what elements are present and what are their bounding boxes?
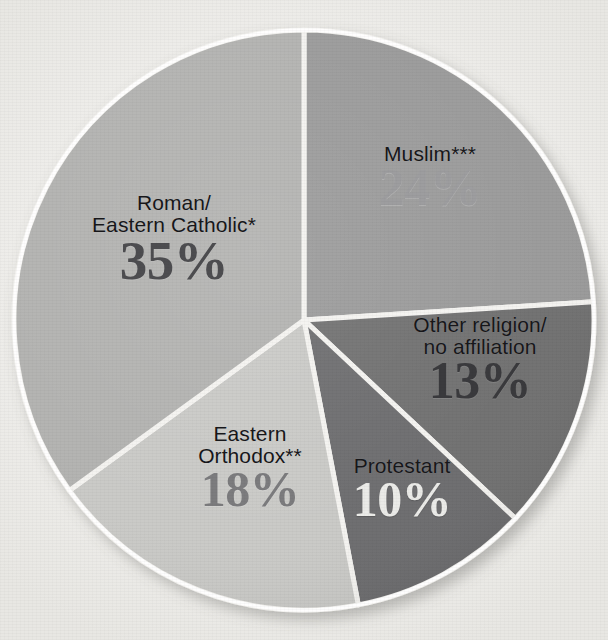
pie-slice-muslim[interactable] xyxy=(304,30,593,320)
page-background: Roman/ Eastern Catholic* 35% Muslim*** 2… xyxy=(0,0,608,640)
pie-chart: Roman/ Eastern Catholic* 35% Muslim*** 2… xyxy=(0,0,608,640)
pie-slice-group xyxy=(14,30,594,610)
pie-chart-svg xyxy=(0,0,608,640)
